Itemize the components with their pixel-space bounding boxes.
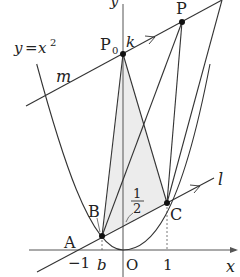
- fraction-den: 2: [133, 201, 141, 216]
- line-k-arrow-icon: [145, 36, 155, 44]
- point-b-label: B: [88, 202, 100, 221]
- point-p0-label: P: [100, 35, 111, 54]
- point-p0-sub: 0: [112, 45, 118, 56]
- tick-b: b: [97, 256, 107, 274]
- tick-one: 1: [163, 256, 173, 274]
- curve-label-y: y: [13, 39, 23, 57]
- x-axis-label: x: [226, 257, 235, 276]
- line-l-label: l: [218, 170, 223, 189]
- point-b: [99, 233, 105, 239]
- y-axis-label: y: [109, 0, 119, 10]
- curve-label-x: x: [38, 39, 47, 57]
- curve-label-exp: 2: [50, 37, 56, 48]
- curve-label-eq: =: [25, 39, 38, 57]
- point-p0: [120, 51, 126, 57]
- point-c-label: C: [170, 205, 182, 224]
- fraction-num: 1: [133, 186, 141, 201]
- line-l-arrow-icon: [190, 185, 200, 193]
- x-axis-arrow-icon: [230, 247, 238, 253]
- point-p: [179, 19, 185, 25]
- origin-label: O: [126, 256, 138, 274]
- point-a-label: A: [63, 233, 76, 252]
- line-k-label: k: [126, 33, 135, 51]
- tick-neg-one: −1: [68, 254, 90, 272]
- math-diagram: y x y = x 2 m k l P 0 P A B C 1 2 −1 b O…: [0, 0, 240, 277]
- point-p-label: P: [176, 0, 187, 18]
- line-m-label: m: [56, 67, 71, 86]
